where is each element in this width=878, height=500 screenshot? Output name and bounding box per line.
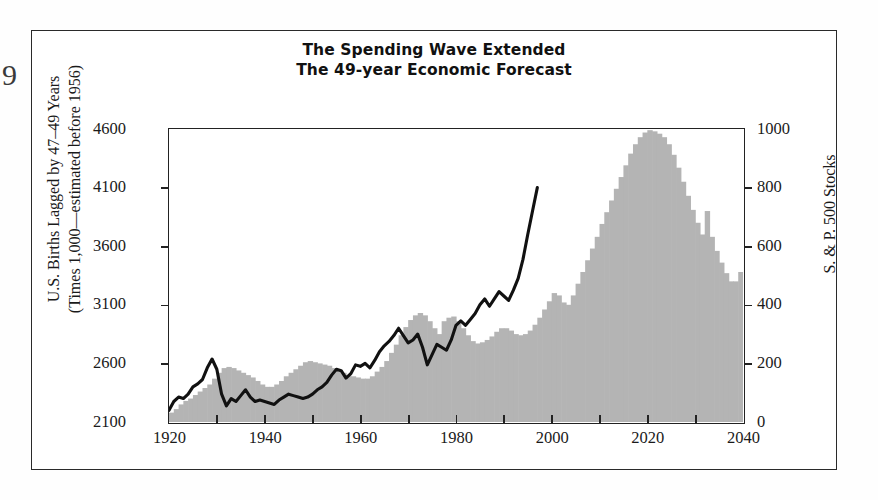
chart-subtitle: The 49-year Economic Forecast xyxy=(31,60,837,80)
y-axis-label-left: U.S. Births Lagged by 47–49 Years (Times… xyxy=(43,39,85,339)
y-tick-label-left: 4600 xyxy=(93,119,126,139)
bar xyxy=(647,130,652,422)
y-tick-mark-right xyxy=(744,363,752,365)
bar xyxy=(494,332,499,422)
y-tick-label-left: 4100 xyxy=(93,177,126,197)
bar xyxy=(590,249,595,422)
bar xyxy=(571,295,576,422)
bar xyxy=(690,210,695,422)
bar xyxy=(576,284,581,422)
bar xyxy=(370,376,375,422)
bar xyxy=(681,182,686,422)
bar xyxy=(724,273,729,422)
bar xyxy=(336,370,341,422)
bar-series xyxy=(169,130,743,422)
bar xyxy=(413,315,418,422)
bar xyxy=(375,372,380,422)
bar xyxy=(628,154,633,422)
bar xyxy=(700,234,705,422)
bar xyxy=(547,301,552,422)
bar xyxy=(556,295,561,422)
bar xyxy=(470,341,475,422)
chart-series-canvas xyxy=(169,129,743,422)
chart-title: The Spending Wave Extended The 49-year E… xyxy=(31,40,837,80)
x-tick-mark xyxy=(312,415,314,424)
bar xyxy=(523,334,528,422)
y-axis-label-left-line1: U.S. Births Lagged by 47–49 Years xyxy=(43,39,64,339)
bar xyxy=(466,335,471,422)
bar xyxy=(710,237,715,422)
y-tick-mark-right xyxy=(744,246,752,248)
y-tick-label-left: 3600 xyxy=(93,236,126,256)
bar xyxy=(662,137,667,422)
bar xyxy=(600,224,605,422)
y-tick-label-right: 400 xyxy=(757,294,782,314)
bar xyxy=(666,144,671,422)
bar xyxy=(341,373,346,422)
bar xyxy=(533,325,538,422)
bar xyxy=(714,251,719,422)
bar xyxy=(308,361,313,422)
y-axis-label-right: S. & P. 500 Stocks xyxy=(821,94,839,334)
bar xyxy=(389,353,394,422)
bar xyxy=(480,342,485,422)
x-tick-mark xyxy=(456,415,458,424)
bar xyxy=(485,340,490,422)
bar xyxy=(595,237,600,422)
bar xyxy=(733,281,738,422)
bar xyxy=(365,379,370,422)
bar xyxy=(566,305,571,422)
bar xyxy=(188,399,193,422)
x-tick-label: 2020 xyxy=(631,428,664,448)
bar xyxy=(585,260,590,422)
x-tick-label: 2000 xyxy=(536,428,569,448)
bar xyxy=(202,388,207,422)
bar xyxy=(231,368,236,422)
y-tick-label-right: 600 xyxy=(757,236,782,256)
bar xyxy=(379,367,384,422)
x-tick-label: 1980 xyxy=(440,428,473,448)
bar xyxy=(408,320,413,422)
chart-title-line1: The Spending Wave Extended xyxy=(302,41,565,59)
bar xyxy=(499,328,504,422)
bar xyxy=(169,413,174,422)
bar xyxy=(705,211,710,422)
y-tick-label-left: 2100 xyxy=(93,412,126,432)
bar xyxy=(537,318,542,422)
bar xyxy=(346,375,351,422)
bar xyxy=(633,144,638,422)
bar xyxy=(552,293,557,422)
bar xyxy=(423,315,428,422)
bar xyxy=(384,361,389,422)
y-tick-label-right: 1000 xyxy=(757,119,790,139)
x-tick-mark xyxy=(264,415,266,424)
y-tick-mark-right xyxy=(744,187,752,189)
x-tick-label: 2040 xyxy=(727,428,760,448)
bar xyxy=(738,272,743,422)
bar xyxy=(518,335,523,422)
bar xyxy=(475,343,480,422)
bar xyxy=(619,177,624,422)
bar xyxy=(513,334,518,422)
bar xyxy=(298,366,303,422)
bar xyxy=(284,376,289,422)
x-tick-label: 1960 xyxy=(344,428,377,448)
bar xyxy=(719,263,724,422)
y-tick-label-left: 2600 xyxy=(93,353,126,373)
bar xyxy=(489,336,494,422)
bar xyxy=(442,321,447,422)
x-tick-mark xyxy=(408,415,410,424)
y-tick-label-right: 200 xyxy=(757,353,782,373)
bar xyxy=(657,134,662,422)
bar xyxy=(652,131,657,422)
chart-page: 9 The Spending Wave Extended The 49-year… xyxy=(0,0,878,500)
bar xyxy=(207,385,212,423)
bar xyxy=(427,321,432,422)
bar xyxy=(241,373,246,422)
y-tick-mark-left xyxy=(161,246,169,248)
x-tick-mark xyxy=(551,415,553,424)
y-tick-mark-right xyxy=(744,305,752,307)
bar xyxy=(456,321,461,422)
bar xyxy=(528,331,533,422)
bar xyxy=(461,328,466,422)
